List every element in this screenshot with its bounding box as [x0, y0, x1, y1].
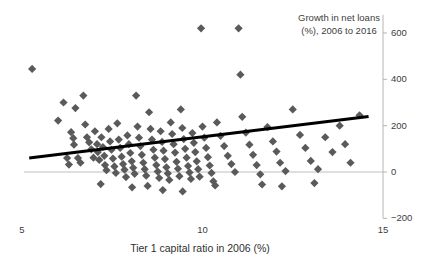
data-point: [231, 168, 239, 176]
data-point: [112, 169, 120, 177]
data-point: [269, 137, 277, 145]
data-point: [135, 134, 143, 142]
y-axis-line: [383, 15, 387, 219]
data-point: [224, 152, 232, 160]
plot-area: [0, 0, 436, 267]
y-tick-label: 600: [391, 27, 407, 38]
data-point: [106, 137, 114, 145]
data-point: [206, 161, 214, 169]
data-point: [213, 118, 221, 126]
data-point: [198, 122, 206, 130]
data-point: [187, 175, 195, 183]
data-point: [296, 131, 304, 139]
data-point: [276, 159, 284, 167]
y-tick-label: −200: [391, 212, 412, 223]
data-point: [164, 169, 172, 177]
data-point: [202, 144, 210, 152]
data-point: [167, 118, 175, 126]
data-point: [196, 173, 204, 181]
data-point: [131, 170, 139, 178]
data-point: [165, 176, 173, 184]
data-points-group: [28, 24, 364, 195]
data-point: [204, 153, 212, 161]
data-point: [139, 159, 147, 167]
data-point: [120, 166, 128, 174]
data-point: [81, 120, 89, 128]
y-tick-label: 0: [391, 166, 396, 177]
data-point: [346, 159, 354, 167]
data-point: [172, 158, 180, 166]
data-point: [245, 141, 253, 149]
x-tick-label: 5: [19, 224, 24, 235]
data-point: [71, 104, 79, 112]
data-point: [152, 161, 160, 169]
data-point: [227, 160, 235, 168]
data-point: [220, 142, 228, 150]
data-point: [190, 139, 198, 147]
data-point: [168, 130, 176, 138]
data-point: [123, 131, 131, 139]
data-point: [207, 169, 215, 177]
data-point: [236, 71, 244, 79]
data-point: [113, 119, 121, 127]
data-point: [258, 180, 266, 188]
data-point: [179, 187, 187, 195]
data-point: [328, 148, 336, 156]
data-point: [178, 124, 186, 132]
data-point: [193, 157, 201, 165]
data-point: [238, 113, 246, 121]
data-point: [181, 145, 189, 153]
data-point: [146, 125, 154, 133]
data-point: [145, 108, 153, 116]
data-point: [110, 162, 118, 170]
data-point: [256, 170, 264, 178]
data-point: [129, 164, 137, 172]
data-point: [97, 180, 105, 188]
data-point: [70, 141, 78, 149]
y-tick-label: 200: [391, 120, 407, 131]
data-point: [177, 105, 185, 113]
x-tick-label: 15: [378, 224, 389, 235]
data-point: [132, 91, 140, 99]
data-point: [59, 98, 67, 106]
data-point: [191, 148, 199, 156]
data-point: [197, 24, 205, 32]
data-point: [122, 173, 130, 181]
data-point: [128, 157, 136, 165]
data-point: [115, 135, 123, 143]
scatter-chart: −2000200400600 51015 Growth in net loans…: [0, 0, 436, 267]
data-point: [321, 133, 329, 141]
data-point: [307, 157, 315, 165]
data-point: [183, 154, 191, 162]
data-point: [253, 161, 261, 169]
data-point: [118, 153, 126, 161]
data-point: [109, 154, 117, 162]
data-point: [138, 151, 146, 159]
data-point: [65, 160, 73, 168]
data-point: [159, 186, 167, 194]
data-point: [185, 168, 193, 176]
data-point: [142, 172, 150, 180]
data-point: [155, 174, 163, 182]
y-tick-label: 400: [391, 73, 407, 84]
data-point: [154, 167, 162, 175]
data-point: [162, 163, 170, 171]
data-point: [157, 127, 165, 135]
data-point: [133, 122, 141, 130]
data-point: [171, 148, 179, 156]
data-point: [336, 122, 344, 130]
data-point: [144, 182, 152, 190]
data-point: [105, 125, 113, 133]
data-point: [175, 172, 183, 180]
data-point: [278, 182, 286, 190]
data-point: [249, 151, 257, 159]
data-point: [272, 148, 280, 156]
data-point: [151, 154, 159, 162]
x-tick-label: 10: [197, 224, 208, 235]
data-point: [149, 146, 157, 154]
data-point: [310, 179, 318, 187]
data-point: [119, 160, 127, 168]
data-point: [79, 91, 87, 99]
data-point: [341, 140, 349, 148]
data-point: [281, 167, 289, 175]
